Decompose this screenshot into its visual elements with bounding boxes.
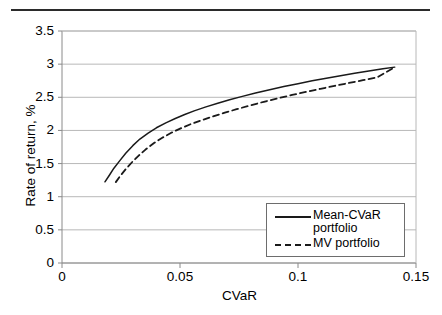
- x-axis-title: CVaR: [62, 288, 417, 303]
- y-tick-marks: [58, 31, 62, 263]
- y-tick-label: 3.5: [6, 24, 54, 38]
- legend-label-mean-cvar: Mean-CVaR portfolio: [313, 209, 401, 235]
- series-line-2: [116, 67, 395, 182]
- x-tick-label: 0.05: [150, 270, 210, 284]
- legend-dashed-line-icon: [273, 238, 313, 252]
- legend-solid-line-icon: [273, 210, 313, 224]
- x-tick-label: 0: [32, 270, 92, 284]
- x-tick-label: 0.1: [268, 270, 328, 284]
- y-axis-title: Rate of return, %: [23, 66, 38, 246]
- series-line-1: [105, 67, 395, 182]
- legend-entry-mv: MV portfolio: [273, 237, 380, 252]
- x-tick-label: 0.15: [386, 270, 442, 284]
- figure-page: 00.511.522.533.5 00.050.10.15 Rate of re…: [0, 0, 442, 315]
- chart-container: 00.511.522.533.5 00.050.10.15 Rate of re…: [0, 0, 442, 315]
- legend-entry-mean-cvar: Mean-CVaR portfolio: [273, 209, 401, 235]
- legend-label-mv: MV portfolio: [313, 237, 380, 250]
- data-series-layer: [105, 67, 395, 182]
- chart-plot-svg: [0, 0, 442, 315]
- x-tick-marks: [62, 263, 416, 268]
- chart-legend: Mean-CVaR portfolio MV portfolio: [266, 203, 405, 257]
- y-tick-label: 0: [6, 256, 54, 270]
